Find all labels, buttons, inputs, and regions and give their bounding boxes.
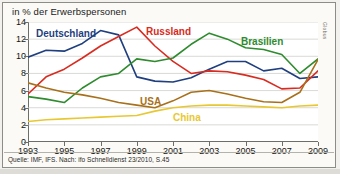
series-label-deutschland: Deutschland xyxy=(36,28,96,39)
x-axis-tick-mark xyxy=(209,142,210,146)
series-label-china: China xyxy=(173,112,201,123)
y-axis-tick-mark xyxy=(24,91,28,92)
x-axis-tick-mark xyxy=(173,142,174,146)
x-axis-tick-mark xyxy=(137,142,138,146)
y-axis-tick-mark xyxy=(24,39,28,40)
series-line-usa xyxy=(28,60,318,108)
x-axis-tick-label: 1997 xyxy=(84,146,118,156)
y-axis-tick-mark xyxy=(24,125,28,126)
y-axis-tick-mark xyxy=(24,108,28,109)
x-axis-tick-mark xyxy=(282,142,283,146)
series-label-brasilien: Brasilien xyxy=(241,36,283,47)
x-axis-tick-label: 2005 xyxy=(229,146,263,156)
x-axis-tick-label: 2003 xyxy=(192,146,226,156)
x-axis-tick-mark xyxy=(246,142,247,146)
x-axis-tick-label: 1995 xyxy=(47,146,81,156)
x-axis-tick-label: 2007 xyxy=(265,146,299,156)
edge-credit-text: Globus xyxy=(322,22,328,40)
x-axis-tick-label: 2009 xyxy=(301,146,335,156)
source-note: Quelle: IMF, IFS. Nach: ifo Schnelldiens… xyxy=(8,156,169,163)
x-axis-tick-label: 2001 xyxy=(156,146,190,156)
footer-divider xyxy=(4,152,334,153)
x-axis-tick-mark xyxy=(28,142,29,146)
x-axis-tick-mark xyxy=(101,142,102,146)
y-axis-tick-mark xyxy=(24,56,28,57)
series-label-russland: Russland xyxy=(146,26,191,37)
chart-title: in % der Erwerbspersonen xyxy=(12,6,126,17)
y-axis-tick-mark xyxy=(24,73,28,74)
x-axis-tick-mark xyxy=(318,142,319,146)
x-axis-tick-label: 1993 xyxy=(11,146,45,156)
series-label-usa: USA xyxy=(140,96,161,107)
chart-figure: in % der Erwerbspersonen 024681012141993… xyxy=(0,0,340,174)
x-axis-tick-label: 1999 xyxy=(120,146,154,156)
y-axis-tick-mark xyxy=(24,22,28,23)
x-axis-tick-mark xyxy=(64,142,65,146)
scan-edge-shadow xyxy=(0,169,340,174)
